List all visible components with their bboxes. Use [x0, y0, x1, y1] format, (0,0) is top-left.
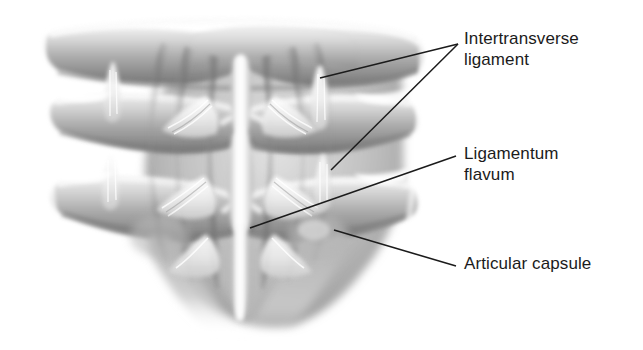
anatomical-figure: Intertransverse ligament Ligamentum flav…: [0, 0, 643, 350]
label-articular-capsule: Articular capsule: [464, 253, 591, 274]
label-ligamentum-flavum: Ligamentum flavum: [464, 143, 559, 185]
label-intertransverse-ligament: Intertransverse ligament: [464, 28, 579, 70]
illustration-body: [42, 20, 458, 334]
